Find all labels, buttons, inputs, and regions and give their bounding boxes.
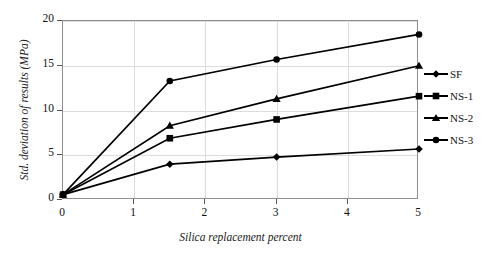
data-point-marker <box>60 191 67 198</box>
legend-label: NS-2 <box>448 112 473 124</box>
legend-marker-square-icon <box>424 89 448 103</box>
chart-legend: SFNS-1NS-2NS-3 <box>424 63 482 151</box>
data-point-marker <box>415 145 423 153</box>
data-point-marker <box>273 153 281 161</box>
legend-marker-triangle-icon <box>424 111 448 125</box>
y-tick-label: 5 <box>24 146 54 158</box>
series-line-sf <box>63 149 419 195</box>
legend-item-ns-2[interactable]: NS-2 <box>424 107 482 129</box>
data-point-marker <box>273 116 280 123</box>
data-point-marker <box>415 62 423 69</box>
legend-glyph <box>428 133 444 147</box>
x-tick-label: 4 <box>332 206 362 218</box>
data-point-marker <box>433 137 440 144</box>
x-axis-title: Silica replacement percent <box>62 231 419 243</box>
data-point-marker <box>166 160 174 168</box>
series-lines <box>63 21 419 200</box>
y-tick-label: 10 <box>24 102 54 114</box>
data-point-marker <box>167 78 174 85</box>
data-point-marker <box>432 114 440 121</box>
y-tick-label: 0 <box>24 191 54 203</box>
legend-item-ns-3[interactable]: NS-3 <box>424 129 482 151</box>
x-tick-label: 2 <box>189 206 219 218</box>
series-line-ns-3 <box>63 34 419 194</box>
data-point-marker <box>167 135 174 142</box>
x-tick-label: 0 <box>47 206 77 218</box>
series-line-ns-2 <box>63 66 419 195</box>
data-point-marker <box>433 93 440 100</box>
legend-label: SF <box>448 68 462 80</box>
legend-glyph <box>428 67 444 81</box>
legend-glyph <box>428 111 444 125</box>
y-tick-label: 20 <box>24 12 54 24</box>
data-point-marker <box>416 31 423 38</box>
legend-marker-circle-icon <box>424 133 448 147</box>
plot-area <box>62 20 418 199</box>
x-tick-label: 3 <box>261 206 291 218</box>
data-point-marker <box>273 56 280 63</box>
legend-label: NS-1 <box>448 90 473 102</box>
data-point-marker <box>416 93 423 100</box>
legend-marker-diamond-icon <box>424 67 448 81</box>
x-tick-label: 5 <box>403 206 433 218</box>
y-tick-mark <box>57 199 62 200</box>
legend-item-ns-1[interactable]: NS-1 <box>424 85 482 107</box>
legend-glyph <box>428 89 444 103</box>
legend-item-sf[interactable]: SF <box>424 63 482 85</box>
x-tick-label: 1 <box>118 206 148 218</box>
y-tick-label: 15 <box>24 57 54 69</box>
chart-figure: Std. deviation of results (MPa) Silica r… <box>0 0 482 255</box>
legend-label: NS-3 <box>448 134 473 146</box>
data-point-marker <box>432 70 440 78</box>
